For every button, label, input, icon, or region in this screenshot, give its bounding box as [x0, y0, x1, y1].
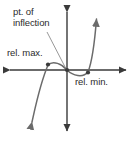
rel-max-point — [46, 62, 50, 66]
rel-max-label: rel. max. — [7, 48, 43, 59]
inflection-point — [65, 68, 69, 72]
rel-min-point — [86, 70, 90, 74]
rel-min-label: rel. min. — [75, 77, 108, 88]
pt-of-inflection-label-line2: inflection — [13, 17, 50, 28]
graph-figure: pt. ofinflection rel. max. rel. min. — [0, 0, 135, 141]
pt-of-inflection-label: pt. ofinflection — [13, 7, 50, 28]
pt-of-inflection-label-line1: pt. of — [13, 6, 34, 17]
